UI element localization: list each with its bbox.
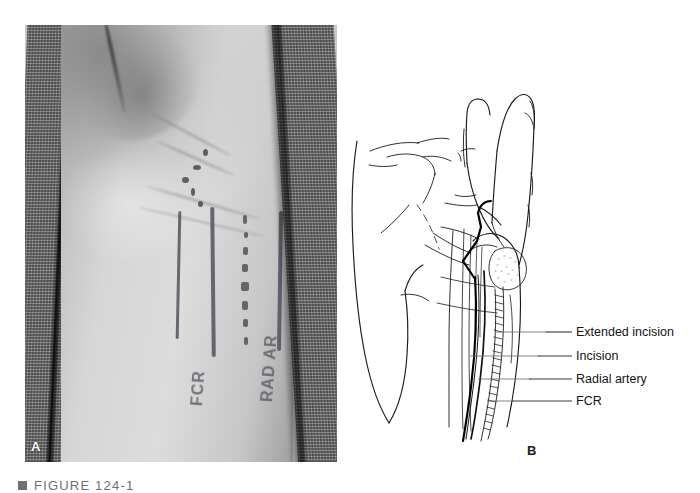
skin-mark-dot bbox=[193, 165, 201, 170]
hand-anatomy-illustration bbox=[345, 55, 555, 450]
index-finger-crease-detail bbox=[458, 153, 461, 161]
skin-mark-dot bbox=[182, 177, 189, 183]
panel-b-line-drawing bbox=[345, 55, 555, 450]
forearm-radial-border bbox=[449, 231, 453, 427]
adjacent-hand-outline bbox=[352, 141, 389, 423]
caption-text: FIGURE 124-1 bbox=[34, 478, 134, 493]
skin-marking-dash bbox=[241, 282, 249, 291]
adjacent-hand-crease bbox=[381, 205, 409, 233]
palm-crease bbox=[441, 227, 479, 239]
wrist-highlight bbox=[55, 145, 205, 265]
skin-marking-dash bbox=[243, 215, 247, 224]
skin-marking-dash bbox=[244, 337, 248, 345]
adjacent-hand-crease bbox=[369, 165, 397, 167]
forearm-fascia-line bbox=[480, 247, 482, 337]
panel-b-letter: B bbox=[527, 443, 536, 458]
label-extended-incision: Extended incision bbox=[576, 326, 674, 339]
caption-square-icon bbox=[18, 481, 27, 490]
adjacent-hand-finger-crease bbox=[423, 173, 435, 203]
skin-mark-dot bbox=[203, 149, 208, 156]
adjacent-hand-crease bbox=[417, 138, 449, 143]
label-incision: Incision bbox=[576, 350, 618, 363]
adjacent-hand-outline-right bbox=[389, 291, 408, 423]
forearm-ulnar-border bbox=[507, 267, 521, 427]
radial-artery bbox=[471, 271, 485, 439]
adjacent-hand-thumb-base bbox=[405, 265, 423, 291]
index-finger-tip bbox=[478, 99, 490, 115]
thumb-radial-border bbox=[497, 95, 535, 152]
web-space-contour bbox=[467, 163, 499, 239]
thumb-ulnar-border bbox=[519, 127, 534, 265]
label-fcr: FCR bbox=[576, 395, 602, 408]
skin-mark-dot bbox=[191, 188, 195, 196]
thumb-tip-crease bbox=[525, 113, 533, 125]
adjacent-hand-finger-crease bbox=[423, 156, 451, 161]
label-radial-artery: Radial artery bbox=[576, 373, 647, 386]
wrist-flexion-crease bbox=[437, 303, 497, 313]
figure-caption: FIGURE 124-1 bbox=[18, 478, 134, 493]
forearm-guide-dashed bbox=[417, 205, 439, 249]
forearm-contour-inner bbox=[510, 295, 512, 363]
skin-marking-dash bbox=[243, 319, 248, 327]
index-finger-ulnar-border bbox=[466, 99, 478, 163]
bone-stipple bbox=[495, 256, 520, 282]
palm-crease bbox=[455, 195, 476, 197]
skin-ink-label-fcr: FCR bbox=[188, 370, 208, 407]
skin-marking-dash bbox=[242, 301, 248, 310]
panel-a-letter: A bbox=[31, 439, 40, 454]
wrist-flexion-crease bbox=[441, 277, 495, 287]
adjacent-hand-crease bbox=[370, 142, 419, 151]
skin-marking-dash bbox=[243, 247, 248, 255]
skin-marking-dash bbox=[244, 232, 248, 238]
index-finger-crease bbox=[463, 129, 465, 167]
scaphoid-trapezium-contour bbox=[489, 248, 526, 290]
adjacent-hand-finger-crease bbox=[387, 154, 435, 175]
skin-mark-dot bbox=[198, 201, 203, 207]
skin-marking-dash bbox=[242, 264, 248, 272]
palm-crease bbox=[445, 203, 477, 206]
panel-a-photograph: FCR RAD AR A bbox=[25, 25, 337, 462]
thumb-medial-border bbox=[492, 151, 497, 223]
